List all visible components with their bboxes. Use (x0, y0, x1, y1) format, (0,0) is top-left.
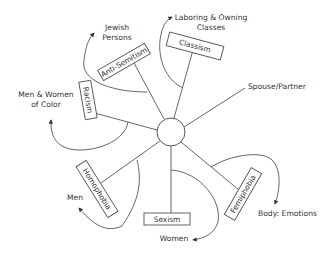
box-femiphobia: Femiphobia (224, 168, 261, 221)
spoke-racism (91, 112, 157, 130)
box-label-homophobia: Homophobia (81, 167, 114, 212)
target-label-body-emotions: Body: Emotions (258, 209, 317, 218)
target-label-classes: Classes (197, 23, 226, 32)
box-label-anti-semitism: Anti-Semitism (99, 45, 148, 79)
oppression-web-diagram: Anti-Semitism Classism Racism Homophobia… (0, 0, 322, 255)
target-label-men: Men (67, 193, 83, 202)
target-label-women: Women (160, 234, 189, 243)
spoke-spouse-partner (184, 88, 245, 127)
target-label-jewish: Jewish (104, 23, 129, 32)
target-label-of-color: of Color (31, 100, 61, 109)
spoke-anti-semitism (134, 63, 164, 119)
target-label-persons: Persons (102, 33, 132, 42)
box-classism: Classism (166, 32, 224, 60)
spoke-femiphobia (181, 142, 239, 190)
target-label-spouse-partner: Spouse/Partner (248, 82, 307, 91)
diagram-canvas: Anti-Semitism Classism Racism Homophobia… (0, 0, 322, 255)
arc-classism (160, 17, 183, 88)
target-label-laboring-owning: Laboring & Owning (175, 13, 248, 22)
box-racism: Racism (79, 80, 97, 120)
spoke-homophobia (101, 141, 160, 183)
box-label-femiphobia: Femiphobia (228, 173, 257, 215)
box-label-sexism: Sexism (154, 215, 181, 224)
hub-circle (157, 118, 185, 146)
box-sexism: Sexism (144, 213, 190, 225)
arc-sexism (171, 170, 218, 240)
box-anti-semitism: Anti-Semitism (98, 43, 151, 80)
target-label-men-women: Men & Women (18, 90, 74, 99)
box-homophobia: Homophobia (76, 160, 118, 217)
arc-racism (51, 120, 128, 150)
